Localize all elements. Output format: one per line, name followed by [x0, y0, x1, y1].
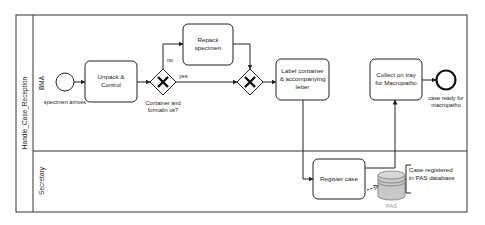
- task-repack-label-1: Repack: [198, 36, 220, 43]
- data-store-label: PAS: [386, 203, 397, 209]
- gateway-check-label-2: formalin ok?: [148, 107, 178, 113]
- gateway-check-label-1: Container and: [145, 100, 180, 106]
- text-annotation: Case registered in PAS database: [406, 165, 455, 193]
- task-repack-label-2: specimen: [195, 44, 222, 51]
- end-event-label-2: macropatho: [431, 102, 461, 108]
- flow-label-to-register[interactable]: [303, 100, 313, 179]
- task-unpack-label-1: Unpack &: [98, 73, 126, 80]
- bpmn-diagram: Handle_Case_Reception BMA Secretary no y…: [0, 0, 485, 225]
- task-label-label-3: letter: [296, 83, 310, 90]
- flow-register-to-collect[interactable]: [365, 100, 395, 168]
- task-label-container[interactable]: Label container & accompanying letter: [276, 59, 329, 100]
- task-unpack-label-2: Control: [101, 81, 121, 88]
- end-event-label-1: case ready for: [428, 95, 464, 101]
- annotation-line-1: Case registered: [409, 166, 453, 173]
- task-collect-on-tray[interactable]: Collect on tray for Macropatho: [370, 59, 422, 100]
- task-register-label: Register case: [320, 175, 358, 182]
- flow-repack-to-merge[interactable]: [233, 44, 250, 69]
- annotation-line-2: in PAS database: [409, 174, 455, 181]
- task-collect-label-1: Collect on tray: [376, 71, 416, 78]
- data-store-pas[interactable]: PAS: [378, 171, 405, 209]
- task-collect-label-2: for Macropatho: [375, 79, 417, 86]
- data-association-register-to-pas[interactable]: [367, 186, 378, 190]
- task-unpack-control[interactable]: Unpack & Control: [85, 61, 137, 102]
- task-label-label-2: & accompanying: [280, 75, 326, 82]
- task-repack-specimen[interactable]: Repack specimen: [183, 24, 233, 65]
- task-label-label-1: Label container: [281, 67, 323, 74]
- lane-label-secretary: Secretary: [38, 166, 46, 195]
- gateway-container-check[interactable]: Container and formalin ok?: [145, 69, 180, 113]
- flow-label-yes: yes: [179, 73, 188, 79]
- pool-title: Handle_Case_Reception: [21, 76, 29, 149]
- lane-label-bma: BMA: [38, 75, 45, 90]
- end-event[interactable]: case ready for macropatho: [428, 71, 464, 109]
- start-event[interactable]: specimen arrives: [44, 73, 86, 105]
- gateway-merge[interactable]: [237, 69, 263, 95]
- task-register-case[interactable]: Register case: [313, 159, 365, 199]
- flow-label-no: no: [167, 57, 173, 63]
- start-event-label: specimen arrives: [44, 99, 86, 105]
